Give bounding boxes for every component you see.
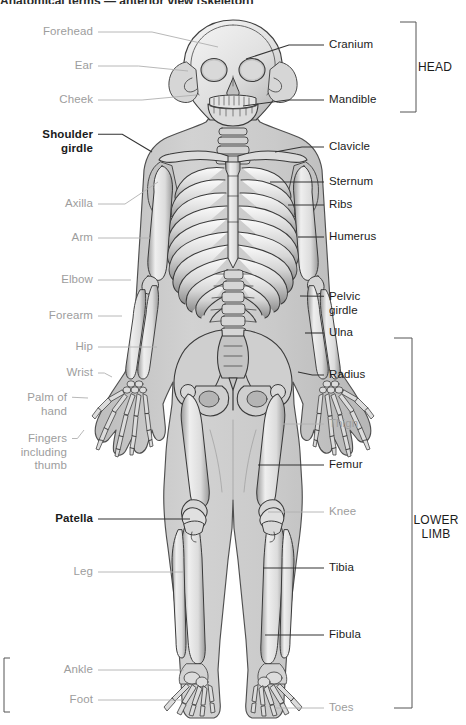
label-ankle: Ankle — [64, 663, 93, 677]
label-forearm: Forearm — [49, 309, 93, 323]
label-mandible: Mandible — [329, 93, 376, 107]
label-cranium: Cranium — [329, 38, 373, 52]
label-fibula: Fibula — [329, 628, 361, 642]
label-sternum: Sternum — [329, 175, 373, 189]
bracket-lower-limb-text: LOWER LIMB — [413, 513, 458, 541]
label-elbow: Elbow — [61, 273, 93, 287]
label-hip: Hip — [75, 340, 93, 354]
anatomy-figure: Anatomical terms — anterior view (skelet… — [0, 0, 466, 725]
label-cheek: Cheek — [59, 93, 93, 107]
label-patella: Patella — [55, 512, 93, 526]
label-forehead: Forehead — [43, 25, 93, 39]
label-clavicle: Clavicle — [329, 140, 370, 154]
label-tibia: Tibia — [329, 561, 354, 575]
label-ear: Ear — [75, 59, 93, 73]
label-layer: ForeheadEarCheekShoulder girdleAxillaArm… — [0, 0, 466, 725]
label-palm-of-hand: Palm of hand — [27, 391, 67, 418]
label-femur: Femur — [329, 458, 363, 472]
label-thigh: Thigh — [329, 417, 358, 431]
bracket-head-text: HEAD — [418, 60, 452, 74]
label-humerus: Humerus — [329, 230, 376, 244]
label-radius: Radius — [329, 368, 365, 382]
label-ulna: Ulna — [329, 326, 353, 340]
label-ribs: Ribs — [329, 198, 352, 212]
label-knee: Knee — [329, 505, 356, 519]
label-axilla: Axilla — [65, 197, 93, 211]
label-shoulder-girdle: Shoulder girdle — [42, 128, 93, 155]
label-arm: Arm — [72, 231, 93, 245]
label-foot: Foot — [70, 693, 93, 707]
label-wrist: Wrist — [67, 366, 93, 380]
label-fingers-including-thumb: Fingers including thumb — [21, 432, 67, 473]
label-toes: Toes — [329, 701, 354, 715]
label-leg: Leg — [74, 565, 94, 579]
label-pelvic-girdle: Pelvic girdle — [329, 290, 360, 317]
